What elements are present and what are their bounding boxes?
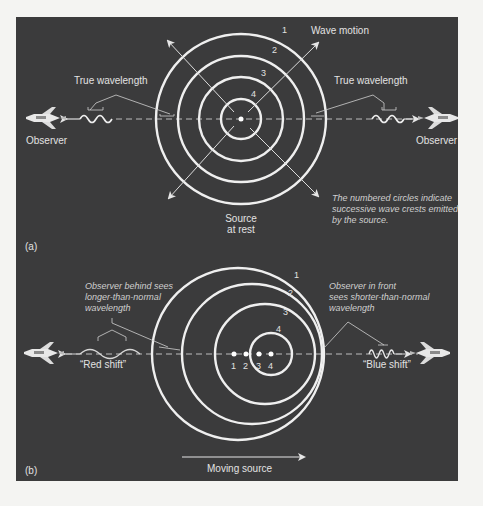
source-position-4: 4: [268, 361, 273, 372]
note-line1: The numbered circles indicate: [332, 193, 458, 204]
ring-number-1-b: 1: [294, 270, 299, 281]
behind-line2: longer-than-normal: [85, 292, 173, 303]
source-label-line1: Source: [211, 213, 271, 224]
observer-shuttle-front: [410, 342, 450, 364]
wave-motion-label: Wave motion: [311, 25, 369, 36]
front-line1: Observer in front: [329, 281, 429, 292]
ring-number-4-a: 4: [251, 89, 256, 100]
ring-number-3-b: 3: [283, 307, 288, 318]
ring-number-4-b: 4: [276, 324, 281, 335]
behind-line1: Observer behind sees: [85, 281, 173, 292]
observer-shuttle-right: [418, 107, 458, 129]
panel-a: [26, 34, 458, 204]
moving-source-label: Moving source: [207, 463, 272, 474]
observer-shuttle-behind: [24, 342, 64, 364]
source-position-1: 1: [231, 361, 236, 372]
observer-front-note: Observer in front sees shorter-than-norm…: [329, 281, 429, 314]
numbered-circles-note: The numbered circles indicate successive…: [332, 193, 458, 226]
front-line3: wavelength: [329, 303, 429, 314]
source-position-2: 2: [243, 361, 248, 372]
panel-a-tag: (a): [25, 241, 37, 252]
red-shift-label: “Red shift”: [80, 359, 126, 370]
source-dot: [239, 117, 244, 122]
observer-shuttle-left: [26, 107, 66, 129]
blue-shift-label: “Blue shift”: [363, 359, 411, 370]
observer-right-label: Observer: [416, 135, 457, 146]
ring-number-3-a: 3: [261, 68, 266, 79]
behind-line3: wavelength: [85, 303, 173, 314]
source-at-rest-label: Source at rest: [211, 213, 271, 235]
source-label-line2: at rest: [211, 224, 271, 235]
true-wavelength-right-label: True wavelength: [334, 75, 408, 86]
panel-b-tag: (b): [25, 465, 37, 476]
ring-number-1-a: 1: [282, 25, 287, 36]
ring-number-2-a: 2: [272, 45, 277, 56]
front-line2: sees shorter-than-normal: [329, 292, 429, 303]
ring-number-2-b: 2: [288, 288, 293, 299]
note-line2: successive wave crests emitted: [332, 204, 458, 215]
source-position-3: 3: [256, 361, 261, 372]
observer-behind-note: Observer behind sees longer-than-normal …: [85, 281, 173, 314]
doppler-diagram: [0, 0, 483, 506]
observer-left-label: Observer: [26, 135, 67, 146]
note-line3: by the source.: [332, 215, 458, 226]
true-wavelength-left-label: True wavelength: [74, 75, 148, 86]
